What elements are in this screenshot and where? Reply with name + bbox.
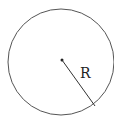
circle-diagram: R bbox=[0, 0, 114, 125]
circle-outline bbox=[8, 9, 114, 115]
radius-label: R bbox=[80, 65, 91, 81]
